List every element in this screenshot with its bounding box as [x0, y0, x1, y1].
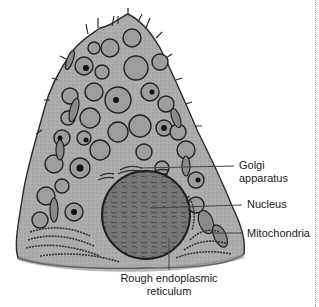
label-golgi-line1: Golgi	[239, 159, 288, 172]
label-rough-er: Rough endoplasmic reticulum	[118, 272, 220, 298]
label-golgi-apparatus: Golgi apparatus	[239, 159, 288, 185]
cell-diagram	[0, 0, 319, 307]
label-mitochondria: Mitochondria	[247, 227, 310, 240]
label-nucleus: Nucleus	[247, 198, 287, 211]
nucleus	[102, 171, 190, 259]
label-golgi-line2: apparatus	[239, 172, 288, 185]
label-rer-line1: Rough endoplasmic	[118, 272, 220, 285]
page-divider	[315, 0, 316, 307]
label-rer-line2: reticulum	[118, 285, 220, 298]
